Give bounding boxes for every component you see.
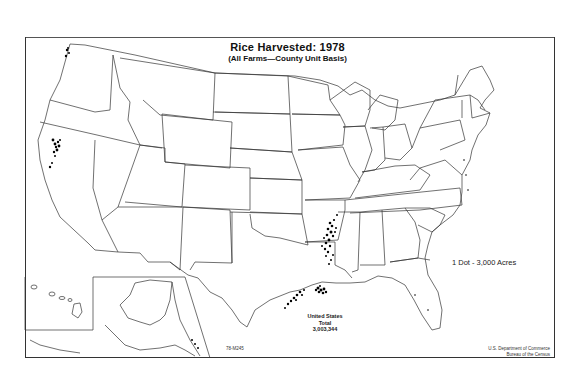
us-total: United States Total 3,003,344	[290, 313, 360, 333]
map-title: Rice Harvested: 1978	[0, 41, 575, 53]
total-value: 3,003,344	[290, 326, 360, 333]
source-credit: U.S. Department of Commerce Bureau of th…	[470, 346, 550, 357]
credit-line-2: Bureau of the Census	[470, 352, 550, 358]
rice-dots	[49, 47, 469, 349]
dot-legend: 1 Dot - 3,000 Acres	[452, 258, 516, 267]
us-outline	[38, 44, 494, 330]
map-subtitle: (All Farms—County Unit Basis)	[0, 54, 575, 63]
map-code: 78-M245	[226, 346, 244, 351]
